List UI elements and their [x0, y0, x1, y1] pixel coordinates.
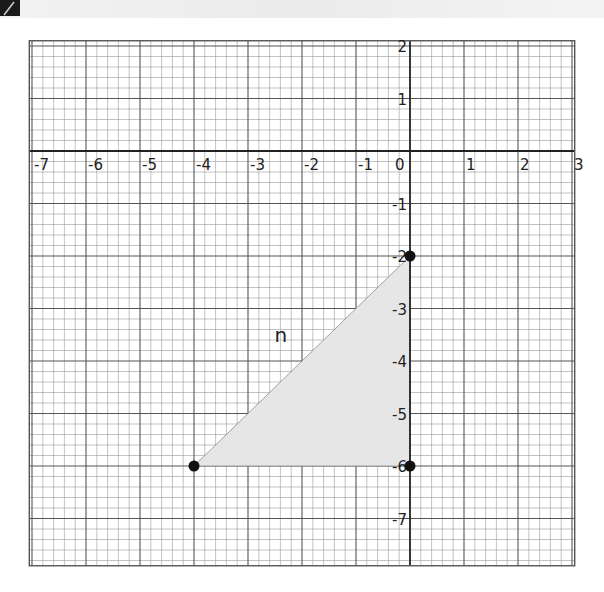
- x-tick-label: -6: [88, 156, 103, 174]
- y-tick-label: 2: [397, 38, 407, 56]
- x-tick-label: -4: [196, 156, 211, 174]
- x-tick-label: 3: [574, 156, 584, 174]
- x-axis-tick-labels: -7-6-5-4-3-2-10123: [34, 156, 584, 174]
- y-tick-label: -4: [392, 353, 407, 371]
- coordinate-plane: -7-6-5-4-3-2-10123 21-1-2-3-4-5-6-7 n: [0, 0, 604, 592]
- x-tick-label: 1: [466, 156, 476, 174]
- y-tick-label: -5: [392, 406, 407, 424]
- y-tick-label: -7: [392, 511, 407, 529]
- y-tick-label: -3: [392, 301, 407, 319]
- x-tick-label: 0: [395, 156, 405, 174]
- triangle-label: n: [274, 323, 287, 347]
- x-tick-label: -5: [142, 156, 157, 174]
- x-tick-label: -1: [358, 156, 373, 174]
- vertex-point: [405, 461, 416, 472]
- x-tick-label: 2: [520, 156, 530, 174]
- x-tick-label: -3: [250, 156, 265, 174]
- y-tick-label: -1: [392, 196, 407, 214]
- vertex-point: [405, 251, 416, 262]
- x-tick-label: -7: [34, 156, 49, 174]
- x-tick-label: -2: [304, 156, 319, 174]
- vertex-point: [189, 461, 200, 472]
- y-tick-label: 1: [397, 91, 407, 109]
